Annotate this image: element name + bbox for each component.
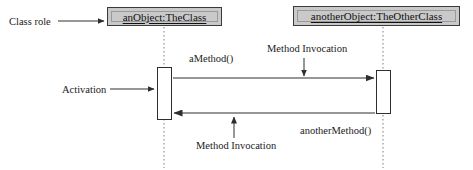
sequence-diagram-canvas: anObject:TheClass anotherObject:TheOther… bbox=[0, 0, 473, 170]
message-label-anothermethod: anotherMethod() bbox=[300, 126, 371, 137]
activation-bar-participant-1[interactable] bbox=[157, 67, 172, 120]
participant-box-2[interactable]: anotherObject:TheOtherClass bbox=[293, 6, 460, 26]
message-label-amethod: aMethod() bbox=[189, 54, 233, 65]
participant-box-2-inner-border: anotherObject:TheOtherClass bbox=[297, 10, 456, 22]
participant-box-1-inner-border: anObject:TheClass bbox=[111, 11, 218, 22]
activation-bar-participant-2[interactable] bbox=[376, 70, 391, 114]
participant-box-1[interactable]: anObject:TheClass bbox=[107, 7, 222, 26]
annotation-label-class-role: Class role bbox=[9, 17, 51, 28]
annotation-label-method-invocation-top: Method Invocation bbox=[267, 44, 347, 55]
participant-1-label: anObject:TheClass bbox=[123, 11, 207, 23]
annotation-label-method-invocation-bottom: Method Invocation bbox=[196, 141, 276, 152]
annotation-label-activation: Activation bbox=[62, 85, 106, 96]
participant-2-label: anotherObject:TheOtherClass bbox=[311, 10, 442, 22]
